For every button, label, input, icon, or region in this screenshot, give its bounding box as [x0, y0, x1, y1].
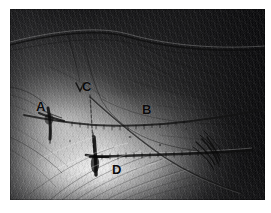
callout-label-c: C [82, 80, 91, 93]
diagonal-strand-c-lower-right [89, 97, 242, 194]
specular-highlight-streaks [40, 137, 156, 191]
micrograph-plate: A B C D [10, 9, 265, 200]
anatomy-suture-overlay [10, 9, 265, 200]
callout-label-b: B [142, 103, 151, 116]
tissue-fold-highlights-upper [10, 30, 265, 47]
figure-root: A B C D [0, 0, 271, 213]
tissue-fold-lines-upper [10, 33, 265, 81]
callout-label-a: A [36, 100, 45, 113]
callout-label-d: D [112, 163, 121, 176]
tissue-plane-boundary-mid [50, 43, 265, 154]
